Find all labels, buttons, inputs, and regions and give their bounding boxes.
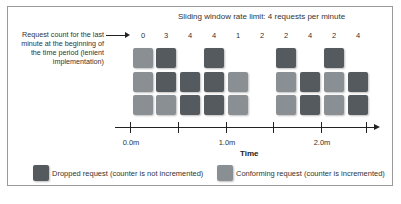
dropped-request-box — [180, 72, 200, 92]
conforming-request-box — [324, 95, 344, 115]
conforming-request-box — [228, 95, 248, 115]
request-count: 1 — [228, 31, 248, 40]
dropped-request-box — [180, 95, 200, 115]
axis-tick — [226, 122, 227, 133]
pointer-arrow-icon — [106, 35, 126, 36]
request-count: 3 — [156, 31, 176, 40]
axis-tick — [366, 122, 367, 133]
axis-tick — [130, 122, 131, 133]
conforming-request-box — [324, 72, 344, 92]
request-count: 2 — [276, 31, 296, 40]
request-count: 4 — [204, 31, 224, 40]
legend-dropped-label: Dropped request (counter is not incremen… — [52, 169, 203, 178]
time-axis — [115, 127, 375, 128]
dropped-request-box — [204, 95, 224, 115]
tick-label: 0.0m — [116, 138, 146, 147]
conforming-request-box — [133, 72, 153, 92]
conforming-request-box — [133, 95, 153, 115]
dropped-request-box — [300, 72, 320, 92]
dropped-request-box — [156, 48, 176, 68]
axis-tick — [273, 122, 274, 133]
axis-tick — [321, 122, 322, 133]
conforming-request-box — [156, 95, 176, 115]
conforming-request-box — [133, 48, 153, 68]
request-count: 4 — [180, 31, 200, 40]
request-count: 2 — [252, 31, 272, 40]
dropped-request-box — [156, 72, 176, 92]
dropped-request-box — [204, 48, 224, 68]
tick-label: 1.0m — [212, 138, 242, 147]
conforming-request-box — [276, 95, 296, 115]
legend-dropped-swatch — [33, 165, 49, 181]
request-count-label: Request count for the last minute at the… — [14, 30, 104, 66]
request-count: 4 — [300, 31, 320, 40]
request-count: 4 — [348, 31, 368, 40]
dropped-request-box — [348, 72, 368, 92]
legend-conforming-label: Conforming request (counter is increment… — [236, 169, 385, 178]
conforming-request-box — [276, 72, 296, 92]
request-count: 0 — [133, 31, 153, 40]
tick-label: 2.0m — [307, 138, 337, 147]
legend-conforming-swatch — [217, 165, 233, 181]
request-count: 2 — [324, 31, 344, 40]
dropped-request-box — [204, 72, 224, 92]
dropped-request-box — [300, 95, 320, 115]
dropped-request-box — [324, 48, 344, 68]
axis-label: Time — [240, 149, 259, 158]
axis-tick — [178, 122, 179, 133]
dropped-request-box — [276, 48, 296, 68]
diagram-title: Sliding window rate limit: 4 requests pe… — [178, 12, 345, 21]
dropped-request-box — [348, 95, 368, 115]
conforming-request-box — [228, 72, 248, 92]
